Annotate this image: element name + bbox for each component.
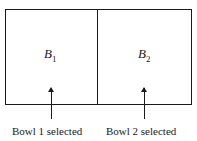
bowl-2-label: B2	[138, 46, 150, 64]
bowl-1-label: B1	[44, 46, 56, 64]
bowl-1-caption: Bowl 1 selected	[12, 125, 82, 137]
arrow-up-icon	[51, 88, 52, 119]
bowl-2-caption: Bowl 2 selected	[106, 125, 176, 137]
arrow-up-icon	[144, 88, 145, 119]
